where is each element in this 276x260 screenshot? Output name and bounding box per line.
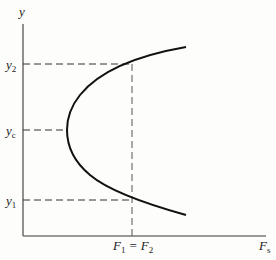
x-axis-label: Fs xyxy=(258,238,271,255)
y1-label: y1 xyxy=(4,193,16,210)
yc-label: yc xyxy=(4,123,16,140)
f1-equals-f2-label: F1=F2 xyxy=(112,238,153,255)
specific-force-diagram: y y2 yc y1 F1=F2 Fs xyxy=(0,0,276,260)
specific-force-curve xyxy=(67,47,186,215)
y2-label: y2 xyxy=(4,57,16,74)
y-axis-label: y xyxy=(17,4,25,19)
